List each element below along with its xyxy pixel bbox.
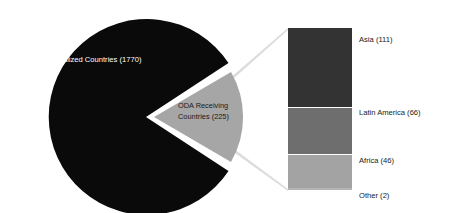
chart-canvas: Industrialized Countries (1770) ODA Rece… bbox=[0, 0, 465, 213]
bar-label-africa: Africa (46) bbox=[359, 156, 394, 165]
bar-label-other: Other (2) bbox=[359, 191, 390, 200]
wedge-label-line-1: ODA Receiving bbox=[178, 101, 228, 110]
pie-label-industrialized: Industrialized Countries (1770) bbox=[38, 55, 142, 64]
bar-label-asia: Asia (111) bbox=[359, 35, 393, 44]
bar-segment-latin-america bbox=[288, 108, 352, 154]
wedge-label-line-2: Countries (225) bbox=[178, 112, 229, 121]
bar-segment-asia bbox=[288, 28, 352, 107]
bar-segment-other bbox=[288, 188, 352, 190]
bar-segment-africa bbox=[288, 155, 352, 188]
pie-of-bar-chart: Industrialized Countries (1770) ODA Rece… bbox=[0, 0, 465, 213]
bar-label-latin-america: Latin America (66) bbox=[359, 108, 421, 117]
stacked-bar bbox=[288, 28, 352, 190]
